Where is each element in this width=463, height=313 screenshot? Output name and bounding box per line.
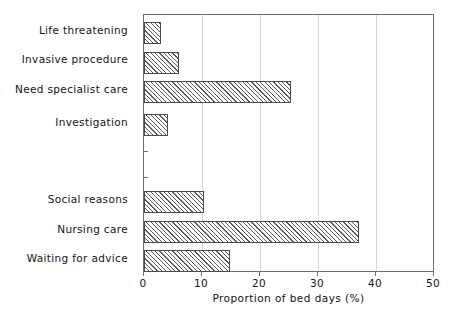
- category-label-invasive-procedure: Invasive procedure: [22, 54, 128, 65]
- bar-life-threatening: [144, 22, 161, 44]
- x-axis-tick-40: [375, 272, 376, 276]
- bar-investigation: [144, 114, 168, 136]
- x-axis-ticklabel-20: 20: [252, 278, 266, 289]
- x-axis-ticklabel-40: 40: [368, 278, 382, 289]
- category-label-social-reasons: Social reasons: [48, 194, 128, 205]
- category-axis-labels: Life threatening Invasive procedure Need…: [0, 0, 136, 313]
- gridline-40: [376, 15, 377, 271]
- category-label-need-specialist-care: Need specialist care: [15, 84, 128, 95]
- x-axis-tick-50: [433, 272, 434, 276]
- category-label-waiting-for-advice: Waiting for advice: [27, 253, 128, 264]
- x-axis-tick-10: [201, 272, 202, 276]
- x-axis-tick-30: [317, 272, 318, 276]
- y-axis-tick-gap-2: [143, 177, 148, 178]
- bar-social-reasons: [144, 191, 204, 213]
- x-axis-ticklabel-30: 30: [310, 278, 324, 289]
- category-label-life-threatening: Life threatening: [39, 25, 128, 36]
- x-axis-tick-20: [259, 272, 260, 276]
- category-label-nursing-care: Nursing care: [57, 224, 128, 235]
- category-label-investigation: Investigation: [55, 117, 128, 128]
- bar-invasive-procedure: [144, 52, 179, 74]
- bar-need-specialist-care: [144, 81, 291, 103]
- y-axis-tick-gap-1: [143, 151, 148, 152]
- x-axis-title: Proportion of bed days (%): [143, 293, 434, 304]
- bar-chart: Life threatening Invasive procedure Need…: [0, 0, 463, 313]
- plot-area: [143, 14, 434, 272]
- x-axis-tick-0: [143, 272, 144, 276]
- bar-waiting-for-advice: [144, 250, 230, 272]
- x-axis-ticklabel-0: 0: [139, 278, 146, 289]
- x-axis-ticklabel-50: 50: [426, 278, 440, 289]
- bar-nursing-care: [144, 221, 359, 243]
- x-axis-ticklabel-10: 10: [194, 278, 208, 289]
